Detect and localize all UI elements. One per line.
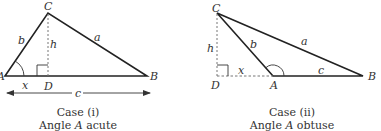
side-c-label-1: c — [75, 87, 81, 100]
side-b-label-1: b — [18, 34, 25, 47]
triangle-abc-1 — [5, 13, 147, 76]
caption-angle-obtuse: Angle A obtuse — [249, 119, 334, 131]
right-angle-marker-1 — [37, 65, 48, 76]
vertex-a-label-2: A — [269, 79, 278, 92]
case-1-acute-triangle: C A B D b a h x c Case (i) Angle A acute — [0, 0, 158, 131]
height-h-label-1: h — [50, 38, 57, 51]
angle-a-arc-1 — [15, 61, 24, 76]
vertex-b-label-2: B — [367, 70, 376, 83]
vertex-a-label-1: A — [0, 70, 5, 83]
case-2-obtuse-triangle: C B A D h b a x c Case (ii) Angle A obtu… — [207, 2, 376, 131]
vertex-c-label-2: C — [212, 2, 221, 15]
segment-x-label-1: x — [22, 79, 29, 92]
right-angle-marker-2 — [217, 65, 228, 76]
triangle-cases-diagram: C A B D b a h x c Case (i) Angle A acute… — [0, 0, 381, 131]
segment-x-label-2: x — [238, 64, 245, 77]
vertex-b-label-1: B — [149, 70, 158, 83]
vertex-d-label-2: D — [210, 79, 220, 92]
vertex-d-label-1: D — [43, 80, 53, 93]
side-a-label-1: a — [94, 31, 101, 44]
caption-case-1: Case (i) — [57, 106, 100, 119]
caption-case-2: Case (ii) — [269, 106, 315, 119]
caption-angle-acute: Angle A acute — [38, 119, 117, 131]
vertex-c-label-1: C — [44, 0, 53, 13]
side-b-label-2: b — [250, 38, 257, 51]
side-a-label-2: a — [301, 35, 308, 48]
side-c-label-2: c — [318, 64, 324, 77]
height-h-label-2: h — [207, 42, 214, 55]
